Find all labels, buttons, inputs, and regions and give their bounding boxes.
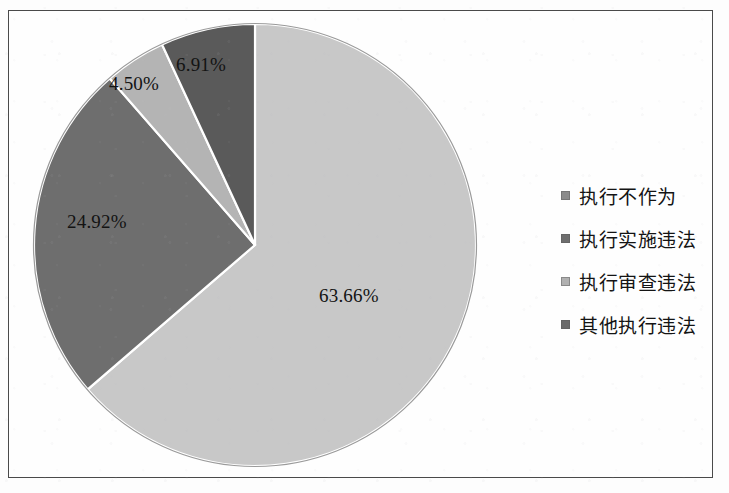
legend-item-0[interactable]: 执行不作为 bbox=[561, 179, 711, 211]
slice-value-label-0: 63.66% bbox=[319, 285, 379, 307]
legend-swatch-icon-2 bbox=[561, 277, 570, 286]
legend-item-2[interactable]: 执行审查违法 bbox=[561, 265, 711, 297]
legend-swatch-icon-3 bbox=[561, 320, 570, 329]
chart-frame: 63.66% 24.92% 4.50% 6.91% 执行不作为 执行实施违法 执… bbox=[8, 10, 713, 478]
pie-plot-area: 63.66% 24.92% 4.50% 6.91% bbox=[9, 11, 509, 479]
legend-label-3: 其他执行违法 bbox=[579, 311, 696, 338]
slice-value-label-1: 24.92% bbox=[67, 211, 127, 233]
legend-item-3[interactable]: 其他执行违法 bbox=[561, 308, 711, 340]
chart-legend: 执行不作为 执行实施违法 执行审查违法 其他执行违法 bbox=[561, 179, 711, 351]
legend-label-1: 执行实施违法 bbox=[579, 225, 696, 252]
pie-slices bbox=[34, 24, 476, 466]
slice-value-label-3: 6.91% bbox=[176, 54, 226, 76]
legend-swatch-icon-0 bbox=[561, 191, 570, 200]
slice-value-label-2: 4.50% bbox=[109, 73, 159, 95]
legend-label-2: 执行审查违法 bbox=[579, 268, 696, 295]
legend-swatch-icon-1 bbox=[561, 234, 570, 243]
legend-label-0: 执行不作为 bbox=[579, 182, 677, 209]
pie-chart bbox=[32, 22, 478, 468]
legend-item-1[interactable]: 执行实施违法 bbox=[561, 222, 711, 254]
